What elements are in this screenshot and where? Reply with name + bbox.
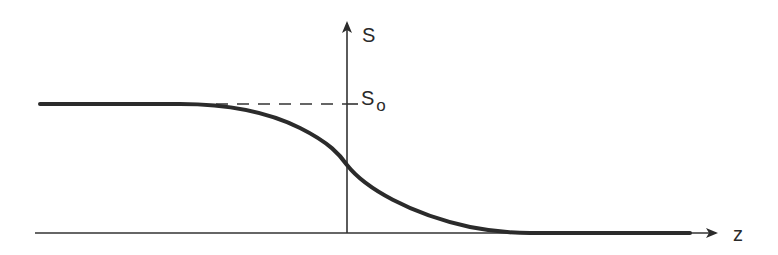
profile-curve [40, 104, 690, 233]
s0-label: So [361, 87, 386, 115]
z-axis-label: z [733, 223, 743, 245]
sigmoid-diagram: S So z [0, 0, 778, 255]
s0-label-main: S [361, 87, 374, 109]
s-axis-label: S [362, 24, 375, 46]
s0-label-subscript: o [376, 96, 385, 115]
